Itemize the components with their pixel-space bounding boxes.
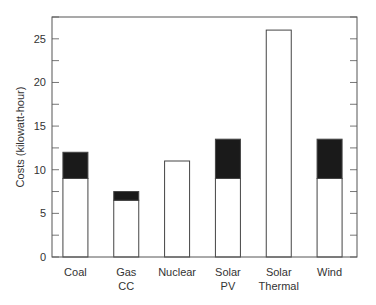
bar-segment-base [266,30,291,257]
y-axis-title: Costs (kilowatt-hour) [14,87,26,188]
y-tick-label: 25 [34,33,46,45]
bar-segment-additional [114,192,139,201]
y-tick-label: 15 [34,120,46,132]
bars [63,30,342,257]
x-category-label: Nuclear [158,266,196,278]
bar-segment-base [114,200,139,257]
x-category-label: Thermal [259,280,299,292]
bar-segment-base [63,178,88,257]
bar-segment-additional [215,139,240,178]
stacked-bar-chart: 0510152025 CoalGasCCNuclearSolarPVSolarT… [0,0,376,305]
x-category-label: Solar [266,266,292,278]
plot-frame [52,17,357,257]
x-category-label: PV [221,280,236,292]
bar-segment-additional [63,152,88,178]
bar-segment-base [317,178,342,257]
category-labels: CoalGasCCNuclearSolarPVSolarThermalWind [64,266,342,292]
x-category-label: Solar [215,266,241,278]
y-tick-label: 0 [40,251,46,263]
bar-segment-base [215,178,240,257]
bar-segment-additional [317,139,342,178]
bar-segment-base [165,161,190,257]
x-category-label: Gas [116,266,137,278]
y-tick-label: 10 [34,164,46,176]
y-tick-label: 5 [40,207,46,219]
x-category-label: Coal [64,266,87,278]
y-tick-label: 20 [34,76,46,88]
x-category-label: Wind [317,266,342,278]
x-category-label: CC [118,280,134,292]
